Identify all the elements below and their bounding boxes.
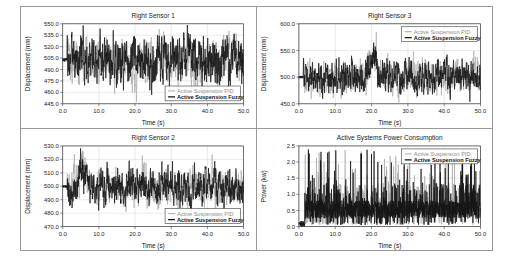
tick-label-x: 0.0	[294, 230, 303, 236]
legend-label-fuzzy: Active Suspension Fuzzy	[177, 94, 245, 100]
panel-right-sensor-2: Right Sensor 20.010.020.030.040.050.0470…	[21, 129, 257, 251]
legend: Active Suspension PIDActive Suspension F…	[401, 27, 481, 42]
y-axis-label: Power (kw)	[259, 170, 267, 202]
tick-label-x: 50.0	[474, 230, 486, 236]
tick-label-y: 2.0	[286, 159, 295, 165]
tick-label-x: 40.0	[202, 230, 214, 236]
tick-label-y: 2.5	[286, 143, 295, 149]
tick-label-x: 0.0	[59, 230, 68, 236]
tick-label-y: 550.0	[44, 21, 59, 27]
chart-title: Active Systems Power Consumption	[336, 133, 442, 141]
tick-label-x: 40.0	[202, 108, 214, 114]
x-axis-label: Time (s)	[142, 119, 165, 127]
tick-label-y: 500.0	[44, 183, 59, 189]
tick-label-y: 460.0	[44, 89, 59, 95]
panel-power-consumption: Active Systems Power Consumption0.010.02…	[257, 129, 493, 251]
tick-label-x: 0.0	[294, 108, 303, 114]
chart-title: Right Sensor 3	[367, 12, 411, 20]
panel-right-sensor-3: Right Sensor 30.010.020.030.040.050.0450…	[257, 7, 493, 129]
tick-label-x: 10.0	[93, 108, 105, 114]
tick-label-x: 10.0	[93, 230, 105, 236]
chart-title: Right Sensor 1	[132, 12, 176, 20]
x-axis-label: Time (s)	[378, 119, 401, 127]
tick-label-y: 445.0	[44, 101, 59, 107]
legend: Active Suspension PIDActive Suspension F…	[165, 86, 244, 101]
tick-label-y: 0.5	[286, 207, 295, 213]
tick-label-x: 50.0	[238, 108, 250, 114]
tick-label-y: 520.0	[44, 156, 59, 162]
legend: Active Suspension PIDActive Suspension F…	[401, 148, 481, 163]
tick-label-x: 20.0	[129, 230, 141, 236]
tick-label-y: 550.0	[280, 48, 295, 54]
tick-label-x: 30.0	[402, 230, 414, 236]
tick-label-x: 20.0	[365, 230, 377, 236]
legend-label-fuzzy: Active Suspension Fuzzy	[413, 156, 481, 162]
tick-label-x: 0.0	[59, 108, 68, 114]
tick-label-y: 450.0	[280, 101, 295, 107]
tick-label-y: 1.5	[286, 175, 295, 181]
tick-label-y: 490.0	[44, 67, 59, 73]
tick-label-x: 40.0	[438, 108, 450, 114]
tick-label-y: 490.0	[44, 196, 59, 202]
tick-label-x: 30.0	[166, 230, 178, 236]
tick-label-x: 20.0	[129, 108, 141, 114]
y-axis-label: Displacement (mm)	[24, 36, 32, 91]
legend-label-fuzzy: Active Suspension Fuzzy	[177, 216, 245, 222]
tick-label-x: 30.0	[402, 108, 414, 114]
tick-label-y: 520.0	[44, 44, 59, 50]
tick-label-y: 475.0	[44, 78, 59, 84]
y-axis-label: Displacement (mm)	[24, 158, 32, 213]
tick-label-x: 10.0	[329, 108, 341, 114]
tick-label-y: 510.0	[44, 169, 59, 175]
tick-label-y: 1.0	[286, 191, 295, 197]
series-line-fuzzy	[298, 43, 480, 102]
panel-right-sensor-1: Right Sensor 10.010.020.030.040.050.0445…	[21, 7, 257, 129]
chart-title: Right Sensor 2	[132, 133, 176, 141]
tick-label-y: 600.0	[280, 21, 295, 27]
tick-label-x: 30.0	[166, 108, 178, 114]
tick-label-y: 470.0	[44, 223, 59, 229]
legend: Active Suspension PIDActive Suspension F…	[165, 208, 245, 223]
tick-label-y: 535.0	[44, 32, 59, 38]
chart-grid: Right Sensor 10.010.020.030.040.050.0445…	[20, 6, 493, 251]
tick-label-x: 20.0	[365, 108, 377, 114]
figure-grid: Right Sensor 10.010.020.030.040.050.0445…	[0, 0, 513, 274]
x-axis-label: Time (s)	[378, 241, 401, 249]
tick-label-x: 10.0	[329, 230, 341, 236]
legend-label-fuzzy: Active Suspension Fuzzy	[413, 35, 481, 41]
tick-label-y: 0.0	[286, 223, 295, 229]
tick-label-y: 500.0	[280, 74, 295, 80]
x-axis-label: Time (s)	[142, 241, 165, 249]
tick-label-y: 505.0	[44, 55, 59, 61]
tick-label-y: 480.0	[44, 210, 59, 216]
tick-label-x: 40.0	[438, 230, 450, 236]
tick-label-x: 50.0	[238, 230, 250, 236]
tick-label-y: 530.0	[44, 143, 59, 149]
y-axis-label: Displacement (mm)	[259, 36, 267, 91]
tick-label-x: 50.0	[474, 108, 486, 114]
series-line-fuzzy	[63, 25, 244, 95]
